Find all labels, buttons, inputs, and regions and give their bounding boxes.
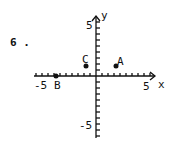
point-b-label: B	[54, 80, 61, 91]
x-tick-label-neg5: -5	[34, 80, 47, 91]
y-axis-label: y	[101, 10, 108, 21]
y-tick-label-neg5: -5	[79, 120, 92, 131]
point-a-label: A	[117, 56, 124, 67]
point-c-label: C	[82, 54, 89, 65]
y-tick-label-pos5: 5	[86, 20, 93, 31]
x-axis-label: x	[158, 79, 165, 90]
x-tick-label-pos5: 5	[143, 81, 150, 92]
point-b	[54, 74, 59, 79]
